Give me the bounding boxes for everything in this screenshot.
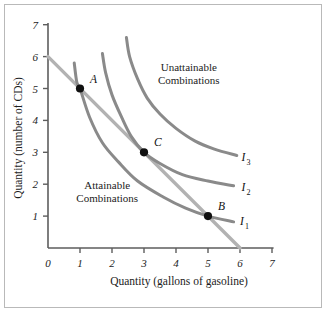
y-axis-tick-labels: 1234567 — [32, 19, 39, 222]
x-axis-tick-labels: 01234567 — [45, 257, 275, 269]
y-tick-label-1: 1 — [33, 210, 39, 222]
y-tick-label-4: 4 — [33, 114, 39, 126]
y-tick-label-7: 7 — [33, 19, 39, 31]
x-tick-label-0: 0 — [45, 257, 51, 269]
curve-label-I3: I3 — [241, 151, 251, 167]
annotation-line-2: Combinations — [76, 192, 138, 204]
x-axis-title: Quantity (gallons of gasoline) — [110, 275, 248, 288]
annotation-line-2: Combinations — [158, 74, 220, 86]
annotation-line-1: Unattainable — [161, 61, 217, 73]
curve-label-subscript: 2 — [247, 188, 251, 197]
indifference-curve-I3 — [126, 37, 236, 155]
y-tick-label-3: 3 — [32, 146, 39, 158]
curve-labels: I3I2I1 — [239, 151, 251, 231]
y-tick-label-2: 2 — [33, 178, 39, 190]
x-tick-label-1: 1 — [77, 257, 83, 269]
curve-label-I2: I2 — [241, 181, 251, 197]
x-tick-label-6: 6 — [237, 257, 243, 269]
data-point-C — [140, 148, 148, 156]
x-tick-label-7: 7 — [269, 257, 275, 269]
x-tick-label-2: 2 — [109, 257, 115, 269]
x-tick-label-5: 5 — [205, 257, 211, 269]
data-point-label-C: C — [154, 136, 162, 148]
data-point-A — [76, 84, 84, 92]
curve-label-I1: I1 — [239, 215, 249, 231]
data-point-label-B: B — [218, 200, 225, 212]
chart-figure: 1234567 01234567 ACB I3I2I1 Unattainable… — [0, 0, 327, 313]
curve-label-subscript: 3 — [247, 158, 251, 167]
data-point-B — [204, 212, 212, 220]
y-tick-label-6: 6 — [33, 51, 39, 63]
annotation-unattainable: UnattainableCombinations — [158, 61, 220, 86]
x-tick-label-4: 4 — [173, 257, 179, 269]
annotation-line-1: Attainable — [84, 179, 130, 191]
y-axis-title: Quantity (number of CDs) — [12, 77, 25, 199]
x-tick-label-3: 3 — [140, 257, 147, 269]
y-tick-label-5: 5 — [33, 83, 39, 95]
annotation-attainable: AttainableCombinations — [76, 179, 138, 204]
indifference-curve-chart: 1234567 01234567 ACB I3I2I1 Unattainable… — [0, 0, 327, 313]
data-point-label-A: A — [89, 73, 98, 85]
curve-label-subscript: 1 — [245, 222, 249, 231]
